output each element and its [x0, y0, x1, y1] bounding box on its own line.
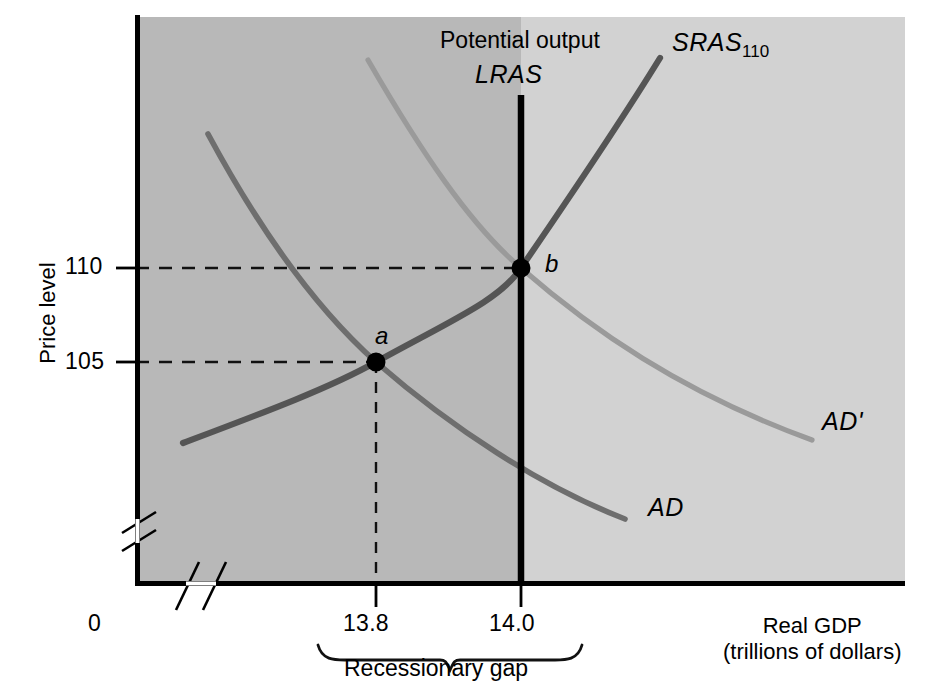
point-a-label: a — [375, 322, 388, 350]
sras-label-base: SRAS — [672, 28, 742, 56]
point-b-label: b — [545, 250, 558, 278]
x-axis-title: Real GDP (trillions of dollars) — [723, 613, 902, 665]
x-axis-title-line-2: (trillions of dollars) — [723, 639, 902, 665]
equilibrium-point-a — [367, 353, 386, 372]
origin-label: 0 — [88, 610, 101, 637]
chart-canvas — [0, 0, 925, 691]
sras-label-subscript: 110 — [742, 42, 769, 61]
x-axis-title-line-1: Real GDP — [723, 613, 902, 639]
ad-label: AD — [648, 493, 684, 522]
y-axis-title-wrapper: Price level — [35, 243, 61, 383]
y-tick-label-105: 105 — [65, 348, 104, 375]
y-tick-label-110: 110 — [65, 253, 103, 280]
ad-prime-label: AD' — [822, 407, 863, 436]
equilibrium-point-b — [512, 259, 531, 278]
sras-110-label: SRAS110 — [672, 28, 769, 57]
potential-output-label: Potential output — [440, 27, 600, 54]
recessionary-gap-label: Recessionary gap — [344, 655, 528, 682]
lras-label: LRAS — [475, 60, 542, 89]
y-axis-title: Price level — [35, 262, 60, 363]
economics-ad-as-chart: Potential output LRAS SRAS110 AD' AD a b… — [0, 0, 925, 691]
plot-region-left — [136, 17, 521, 586]
x-tick-label-14-0: 14.0 — [489, 610, 535, 637]
x-tick-label-13-8: 13.8 — [343, 610, 389, 637]
